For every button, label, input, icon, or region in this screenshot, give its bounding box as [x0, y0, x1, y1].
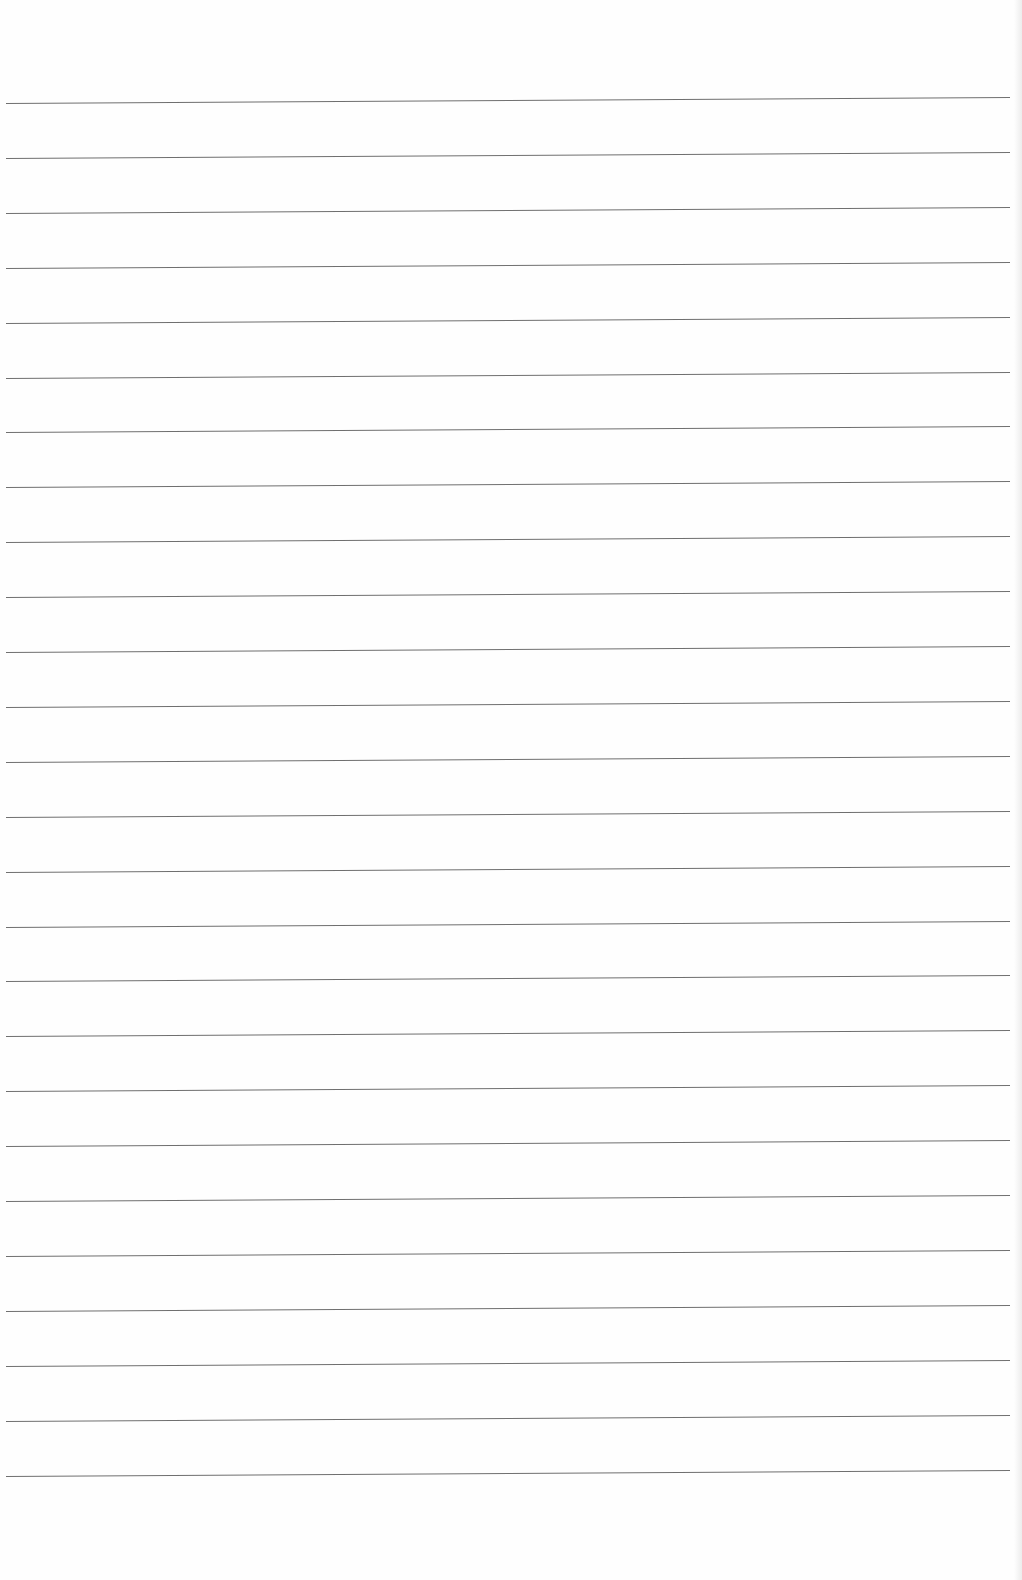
ruled-line	[6, 426, 1010, 433]
ruled-line	[6, 701, 1010, 708]
ruled-line	[6, 921, 1010, 928]
ruled-line	[6, 1195, 1010, 1202]
ruled-line	[6, 1030, 1010, 1037]
ruled-line	[6, 975, 1010, 982]
ruled-line	[6, 1360, 1010, 1367]
ruled-line	[6, 1470, 1010, 1477]
ruled-line	[6, 646, 1010, 653]
ruled-line	[6, 756, 1010, 763]
ruled-line	[6, 1250, 1010, 1257]
ruled-line	[6, 536, 1010, 543]
ruled-line	[6, 481, 1010, 488]
ruled-line	[6, 591, 1010, 598]
lined-paper-page	[0, 0, 1022, 1580]
ruled-line	[6, 207, 1010, 214]
page-edge	[1014, 0, 1022, 1580]
ruled-line	[6, 97, 1010, 104]
ruled-line	[6, 811, 1010, 818]
ruled-line	[6, 1140, 1010, 1147]
ruled-line	[6, 317, 1010, 324]
ruled-line	[6, 1305, 1010, 1312]
ruled-lines	[0, 0, 1022, 1580]
ruled-line	[6, 1415, 1010, 1422]
ruled-line	[6, 152, 1010, 159]
ruled-line	[6, 262, 1010, 269]
ruled-line	[6, 372, 1010, 379]
ruled-line	[6, 1085, 1010, 1092]
ruled-line	[6, 866, 1010, 873]
